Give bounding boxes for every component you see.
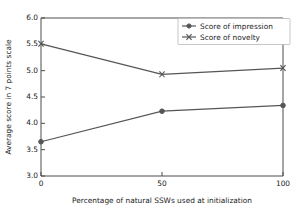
y-tick-label: 4.5 xyxy=(26,92,38,101)
legend-label-impression: Score of impression xyxy=(200,22,273,31)
y-axis-label: Average score in 7 points scale xyxy=(4,39,13,155)
y-tick-label: 5.0 xyxy=(26,66,38,75)
y-tick-label: 5.5 xyxy=(26,39,38,48)
x-tick-label: 50 xyxy=(157,179,167,188)
chart-figure: 3.03.54.04.55.05.56.0 050100 Percentage … xyxy=(0,0,304,210)
y-tick-label: 3.0 xyxy=(26,171,38,180)
line-chart: 3.03.54.04.55.05.56.0 050100 Percentage … xyxy=(0,0,304,210)
y-tick-label: 3.5 xyxy=(26,145,38,154)
x-tick-label: 100 xyxy=(276,179,290,188)
data-point-marker xyxy=(281,103,286,108)
chart-legend[interactable]: Score of impression Score of novelty xyxy=(178,19,290,45)
x-tick-label: 0 xyxy=(39,179,44,188)
y-tick-label: 4.0 xyxy=(26,118,38,127)
legend-label-novelty: Score of novelty xyxy=(200,33,261,42)
data-point-marker xyxy=(160,109,165,114)
x-axis-label: Percentage of natural SSWs used at initi… xyxy=(72,196,252,205)
circle-marker-icon xyxy=(187,24,191,28)
data-point-marker xyxy=(39,139,44,144)
y-tick-label: 6.0 xyxy=(26,13,38,22)
